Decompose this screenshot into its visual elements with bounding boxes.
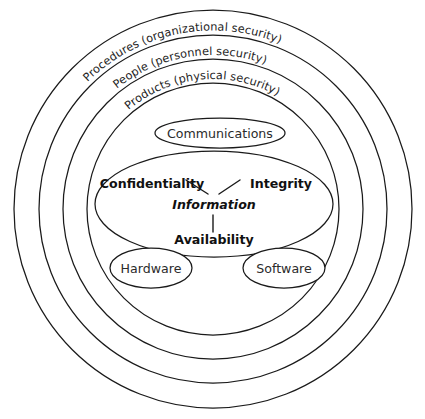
information-label: Information: [172, 197, 256, 212]
hardware-label: Hardware: [121, 261, 182, 276]
security-model-diagram: Procedures (organizational security) Peo…: [0, 0, 425, 419]
ring-label-products: Products (physical security): [122, 69, 282, 112]
diagram-canvas: Procedures (organizational security) Peo…: [0, 0, 425, 419]
software-label: Software: [256, 261, 312, 276]
communications-label: Communications: [167, 126, 273, 141]
integrity-label: Integrity: [250, 176, 312, 191]
availability-label: Availability: [174, 232, 253, 247]
confidentiality-label: Confidentiality: [100, 176, 204, 191]
